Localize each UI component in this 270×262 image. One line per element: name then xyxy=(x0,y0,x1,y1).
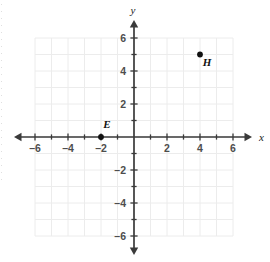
y-tick-label: –6 xyxy=(114,230,126,242)
x-tick-label: –6 xyxy=(29,142,41,154)
x-tick-label: 2 xyxy=(164,142,170,154)
x-axis-arrow-right xyxy=(245,133,253,141)
x-tick-label: 6 xyxy=(230,142,236,154)
y-axis-arrow-up xyxy=(130,20,138,28)
x-tick-label: –2 xyxy=(95,142,107,154)
x-tick-label: –4 xyxy=(62,142,74,154)
y-tick-label: 6 xyxy=(120,32,126,44)
x-axis-arrow-left xyxy=(14,133,22,141)
y-tick-label: 4 xyxy=(120,65,126,77)
x-tick-label: 4 xyxy=(197,142,203,154)
plotted-points: EH xyxy=(98,52,212,140)
point-label-h: H xyxy=(202,56,212,68)
point-label-e: E xyxy=(102,118,110,130)
y-tick-label: –2 xyxy=(114,164,126,176)
y-tick-label: 2 xyxy=(120,98,126,110)
coordinate-plane-svg: –6–4–2246642–2–4–6 xy EH xyxy=(0,0,270,262)
y-tick-label: –4 xyxy=(114,197,126,209)
x-axis-label: x xyxy=(258,131,264,143)
data-point-e xyxy=(98,134,104,140)
coordinate-plane-figure: –6–4–2246642–2–4–6 xy EH xyxy=(0,0,270,262)
y-axis-arrow-down xyxy=(130,248,138,256)
axis-name-labels: xy xyxy=(130,4,264,143)
y-axis-label: y xyxy=(130,4,136,16)
